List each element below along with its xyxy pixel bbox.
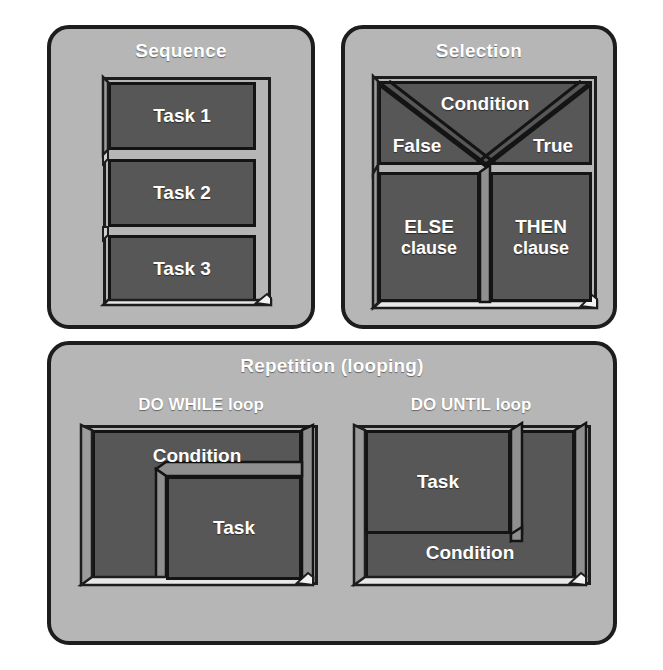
panel-selection: Selection Condition False True ELSE [341, 25, 617, 329]
sequence-block-task-1: Task 1 [108, 82, 256, 150]
do-until-block-condition-label: Condition [426, 542, 515, 563]
selection-block-then-clause-label-secondary: clause [513, 238, 569, 258]
do-until-block-task: Task [365, 430, 511, 534]
panel-title-sequence: Sequence [51, 40, 311, 62]
do-until-block-task-label: Task [417, 471, 459, 492]
repetition-label-do-until: DO UNTIL loop [343, 395, 599, 415]
selection-block-condition-label: Condition [441, 93, 530, 114]
selection-block-then-clause-label-primary: THEN [515, 216, 567, 237]
panel-sequence: Sequence Task 1 Task 2 Task 3 [47, 25, 315, 329]
sequence-block-task-3: Task 3 [108, 235, 256, 303]
selection-block-else-clause: ELSE clause [378, 172, 480, 302]
panel-title-repetition: Repetition (looping) [51, 355, 613, 377]
sequence-block-task-2-label: Task 2 [153, 182, 211, 203]
panel-title-selection: Selection [345, 40, 613, 62]
selection-block-else-clause-label-primary: ELSE [404, 216, 454, 237]
do-while-block-condition-label: Condition [153, 445, 242, 466]
repetition-label-do-while: DO WHILE loop [73, 395, 329, 415]
do-while-block-task: Task [166, 476, 302, 580]
sequence-block-task-3-label: Task 3 [153, 258, 211, 279]
do-while-block-task-label: Task [213, 517, 255, 538]
sequence-block-task-1-label: Task 1 [153, 105, 211, 126]
selection-block-else-clause-label-secondary: clause [401, 238, 457, 258]
panel-repetition: Repetition (looping) DO WHILE loop Condi… [47, 341, 617, 645]
diagram-canvas: Sequence Task 1 Task 2 Task 3 Selection [0, 0, 663, 670]
selection-block-condition: Condition [378, 81, 592, 165]
selection-block-then-clause: THEN clause [490, 172, 592, 302]
sequence-block-task-2: Task 2 [108, 159, 256, 227]
